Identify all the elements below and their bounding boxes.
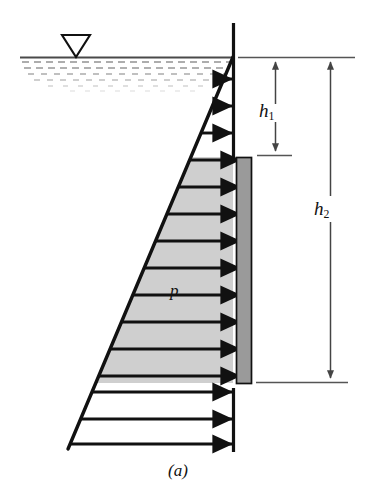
- pressure-diagram-figure: h1 h2 p (a): [0, 0, 368, 500]
- figure-caption: (a): [168, 462, 188, 479]
- retaining-wall: [237, 158, 252, 384]
- diagram-canvas: [0, 0, 368, 500]
- water-table-triangle-icon: [62, 35, 90, 57]
- water-hatch-dashes: [22, 62, 231, 91]
- dimension-label-h2: h2: [314, 199, 329, 220]
- dimension-label-h1: h1: [259, 101, 274, 122]
- dimension-extension-lines: [238, 58, 355, 383]
- pressure-label: p: [170, 282, 179, 299]
